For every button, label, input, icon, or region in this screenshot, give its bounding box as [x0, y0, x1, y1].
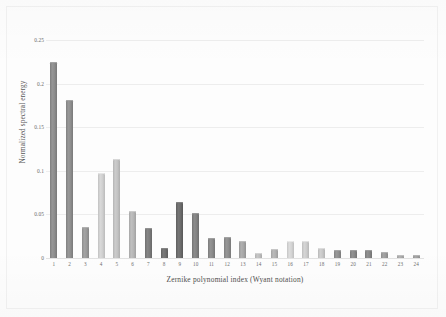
- x-tick-label: 21: [361, 261, 377, 268]
- bar-fill: [208, 238, 215, 258]
- bar: [287, 241, 294, 258]
- x-axis-title: Zernike polynomial index (Wyant notation…: [46, 275, 424, 284]
- bar-fill: [318, 248, 325, 258]
- bar-fill: [287, 241, 294, 258]
- bar: [176, 202, 183, 258]
- x-tick-label: 7: [141, 261, 157, 268]
- x-tick-label: 16: [282, 261, 298, 268]
- x-tick-label: 6: [125, 261, 141, 268]
- x-tick-label: 9: [172, 261, 188, 268]
- bar: [350, 250, 357, 258]
- x-tick-label: 12: [219, 261, 235, 268]
- bar-fill: [176, 202, 183, 258]
- x-tick-label: 19: [330, 261, 346, 268]
- bar-fill: [302, 241, 309, 258]
- x-tick-label: 3: [78, 261, 94, 268]
- bar-fill: [82, 227, 89, 258]
- bar: [318, 248, 325, 258]
- x-tick-label: 10: [188, 261, 204, 268]
- y-tick-label: 0.15: [10, 124, 44, 130]
- x-tick-label: 17: [298, 261, 314, 268]
- x-axis-line: [46, 258, 424, 259]
- y-tick-label: 0.2: [10, 81, 44, 87]
- bar: [50, 62, 57, 258]
- x-tick-label: 22: [377, 261, 393, 268]
- x-tick-label: 2: [62, 261, 78, 268]
- bar: [208, 238, 215, 258]
- y-tick-label: 0.1: [10, 168, 44, 174]
- bar-fill: [365, 250, 372, 258]
- bar: [161, 248, 168, 258]
- plot-area: [46, 40, 424, 258]
- bar-fill: [145, 228, 152, 258]
- x-tick-label: 4: [93, 261, 109, 268]
- x-tick-label: 1: [46, 261, 62, 268]
- bar: [271, 249, 278, 258]
- bar-fill: [50, 62, 57, 258]
- y-tick-label: 0.05: [10, 211, 44, 217]
- bar-fill: [224, 237, 231, 258]
- bar-fill: [239, 241, 246, 258]
- y-axis-tick-labels: 00.050.10.150.20.25: [4, 0, 44, 317]
- x-tick-label: 20: [345, 261, 361, 268]
- bar-fill: [192, 213, 199, 258]
- x-tick-label: 15: [267, 261, 283, 268]
- bar: [145, 228, 152, 258]
- bar: [334, 250, 341, 258]
- bar: [224, 237, 231, 258]
- bar: [192, 213, 199, 258]
- bar: [302, 241, 309, 258]
- x-tick-label: 8: [156, 261, 172, 268]
- bar: [239, 241, 246, 258]
- gridline: [46, 171, 424, 172]
- x-tick-label: 5: [109, 261, 125, 268]
- bar-fill: [350, 250, 357, 258]
- bar: [129, 211, 136, 258]
- gridline: [46, 40, 424, 41]
- bar: [365, 250, 372, 258]
- chart-figure: Normalized spectral energy 00.050.10.150…: [0, 0, 446, 317]
- x-tick-label: 23: [393, 261, 409, 268]
- bar-fill: [129, 211, 136, 258]
- x-axis-tick-labels: 123456789101112131415161718192021222324: [46, 261, 424, 271]
- bar-fill: [271, 249, 278, 258]
- bar: [113, 159, 120, 258]
- bar: [82, 227, 89, 258]
- x-tick-label: 11: [204, 261, 220, 268]
- x-tick-label: 13: [235, 261, 251, 268]
- gridline: [46, 127, 424, 128]
- gridline: [46, 84, 424, 85]
- bar-fill: [161, 248, 168, 258]
- bar: [66, 100, 73, 258]
- bar-fill: [113, 159, 120, 258]
- x-tick-label: 14: [251, 261, 267, 268]
- y-tick-label: 0.25: [10, 37, 44, 43]
- bar-fill: [334, 250, 341, 258]
- bar-fill: [98, 173, 105, 258]
- bar-fill: [66, 100, 73, 258]
- y-tick-label: 0: [10, 255, 44, 261]
- x-tick-label: 24: [408, 261, 424, 268]
- x-tick-label: 18: [314, 261, 330, 268]
- bar: [98, 173, 105, 258]
